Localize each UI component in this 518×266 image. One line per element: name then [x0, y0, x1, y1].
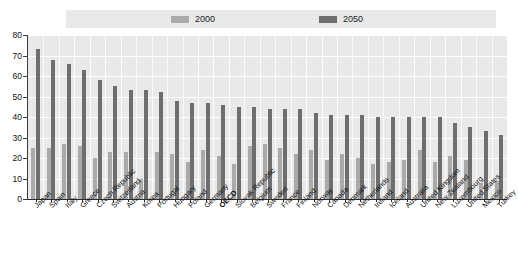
x-axis-tick [128, 199, 129, 202]
x-axis-tick [484, 199, 485, 202]
bar-group [170, 35, 179, 199]
chart-legend: 2000 2050 [66, 10, 496, 28]
bar-2050 [98, 80, 102, 199]
bar-group [387, 35, 396, 199]
bar-group [139, 35, 148, 199]
y-axis-tick-label: 70 [2, 52, 22, 61]
bar-group [402, 35, 411, 199]
x-axis-tick [221, 199, 222, 202]
y-axis-tick [23, 117, 28, 118]
legend-item-2000: 2000 [171, 10, 215, 28]
bar-2050 [391, 117, 395, 199]
y-axis-tick-label: 80 [2, 31, 22, 40]
bar-2050 [82, 70, 86, 199]
bar-group [186, 35, 195, 199]
x-axis-tick [314, 199, 315, 202]
legend-label-2000: 2000 [195, 15, 215, 24]
bar-2050 [206, 103, 210, 199]
x-axis-tick [159, 199, 160, 202]
x-axis-tick [422, 199, 423, 202]
bar-group [340, 35, 349, 199]
bar-2050 [314, 113, 318, 199]
x-axis-tick [298, 199, 299, 202]
x-axis-tick [407, 199, 408, 202]
bar-group [31, 35, 40, 199]
x-axis-tick [82, 199, 83, 202]
bar-group [248, 35, 257, 199]
bar-group [309, 35, 318, 199]
bar-2050 [298, 109, 302, 199]
x-axis-tick [283, 199, 284, 202]
bar-group [47, 35, 56, 199]
y-axis-tick [23, 97, 28, 98]
bar-2050 [36, 49, 40, 199]
x-axis-tick [36, 199, 37, 202]
bar-group [418, 35, 427, 199]
bar-group [356, 35, 365, 199]
y-axis-tick [23, 138, 28, 139]
y-axis-tick [23, 56, 28, 57]
bar-group [294, 35, 303, 199]
bar-group [325, 35, 334, 199]
bar-group [278, 35, 287, 199]
bar-group [479, 35, 488, 199]
y-axis-tick [23, 199, 28, 200]
bar-group [201, 35, 210, 199]
x-axis-tick [268, 199, 269, 202]
x-axis-tick [237, 199, 238, 202]
x-axis-tick [206, 199, 207, 202]
x-axis-tick [499, 199, 500, 202]
bar-group [155, 35, 164, 199]
x-axis-tick [98, 199, 99, 202]
bar-group [93, 35, 102, 199]
x-axis-tick [345, 199, 346, 202]
bar-group [232, 35, 241, 199]
bar-2050 [407, 117, 411, 199]
x-axis-tick [376, 199, 377, 202]
bar-2050 [51, 60, 55, 199]
bar-group [108, 35, 117, 199]
x-axis-labels: JapanSpainItalyGreeceCzech RepublicSwitz… [0, 199, 511, 266]
y-axis-tick [23, 158, 28, 159]
x-axis-tick [391, 199, 392, 202]
y-axis-tick [23, 35, 28, 36]
y-axis-tick [23, 179, 28, 180]
x-axis-tick [144, 199, 145, 202]
bar-2000 [78, 146, 82, 199]
bar-group [433, 35, 442, 199]
y-axis-tick [23, 76, 28, 77]
bar-2050 [67, 64, 71, 199]
y-axis-tick-label: 10 [2, 175, 22, 184]
x-axis-tick [252, 199, 253, 202]
bar-2050 [237, 107, 241, 199]
x-axis-tick [329, 199, 330, 202]
y-axis-tick-label: 30 [2, 134, 22, 143]
x-axis-tick [175, 199, 176, 202]
y-axis-tick-label: 60 [2, 72, 22, 81]
bar-2050 [144, 90, 148, 199]
bar-group [371, 35, 380, 199]
bar-2000 [31, 148, 35, 199]
bar-2000 [62, 144, 66, 199]
bar-2050 [159, 92, 163, 199]
x-axis-tick [51, 199, 52, 202]
bar-group [78, 35, 87, 199]
y-axis-tick-label: 20 [2, 154, 22, 163]
bar-group [62, 35, 71, 199]
legend-swatch-2000 [171, 16, 189, 23]
x-axis-tick [190, 199, 191, 202]
bar-2050 [329, 115, 333, 199]
x-axis-tick [360, 199, 361, 202]
legend-item-2050: 2050 [319, 10, 363, 28]
y-axis-tick-label: 40 [2, 113, 22, 122]
legend-swatch-2050 [319, 16, 337, 23]
y-axis-tick-label: 50 [2, 93, 22, 102]
x-axis-tick [437, 199, 438, 202]
x-axis-tick [67, 199, 68, 202]
bar-group [217, 35, 226, 199]
legend-label-2050: 2050 [343, 15, 363, 24]
x-axis-tick [113, 199, 114, 202]
x-axis-tick [468, 199, 469, 202]
x-axis-tick [453, 199, 454, 202]
